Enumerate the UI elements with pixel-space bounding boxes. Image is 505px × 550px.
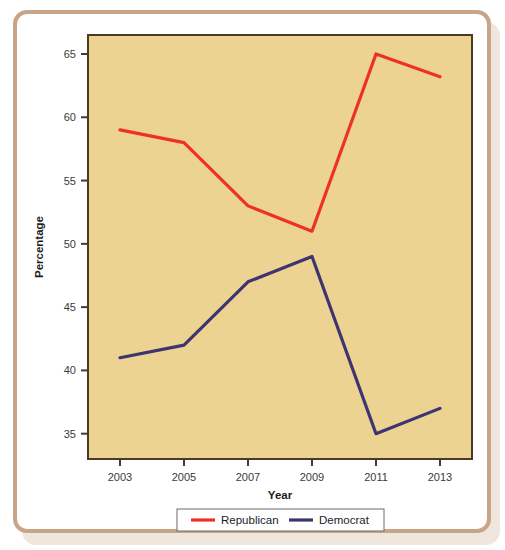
y-tick-label: 45 <box>64 301 76 313</box>
y-tick-label: 35 <box>64 428 76 440</box>
x-tick-label: 2005 <box>172 471 196 483</box>
y-axis-title: Percentage <box>33 216 45 278</box>
x-tick-label: 2011 <box>364 471 388 483</box>
y-tick-label: 40 <box>64 364 76 376</box>
x-tick-label: 2007 <box>236 471 260 483</box>
y-tick-label: 55 <box>64 175 76 187</box>
y-axis-ticks: 35404550556065 <box>64 48 88 440</box>
x-axis-title: Year <box>268 489 293 501</box>
x-axis-ticks: 200320052007200920112013 <box>108 459 452 483</box>
plot-background <box>88 35 472 459</box>
chart-svg: 35404550556065 200320052007200920112013 … <box>17 14 495 537</box>
legend-label-democrat: Democrat <box>319 514 370 526</box>
y-tick-label: 60 <box>64 111 76 123</box>
y-tick-label: 65 <box>64 48 76 60</box>
y-tick-label: 50 <box>64 238 76 250</box>
chart-legend: RepublicanDemocrat <box>177 509 384 531</box>
x-tick-label: 2013 <box>428 471 452 483</box>
figure-card: 35404550556065 200320052007200920112013 … <box>13 10 491 533</box>
x-tick-label: 2009 <box>300 471 324 483</box>
legend-label-republican: Republican <box>221 514 279 526</box>
x-tick-label: 2003 <box>108 471 132 483</box>
line-chart: 35404550556065 200320052007200920112013 … <box>17 14 495 537</box>
